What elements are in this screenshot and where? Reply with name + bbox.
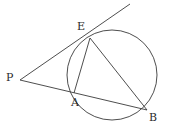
tangent-ray-pe	[20, 4, 130, 80]
geometry-canvas	[0, 0, 172, 131]
vertex-label-b: B	[149, 112, 157, 123]
main-circle	[67, 30, 157, 120]
vertex-label-a: A	[71, 97, 79, 108]
chord-ea	[74, 38, 90, 93]
vertex-label-e: E	[77, 21, 85, 32]
vertex-label-p: P	[6, 72, 13, 83]
chord-eb	[90, 38, 147, 110]
geometry-figure: P E A B	[0, 0, 172, 131]
secant-line-pb	[20, 80, 147, 110]
